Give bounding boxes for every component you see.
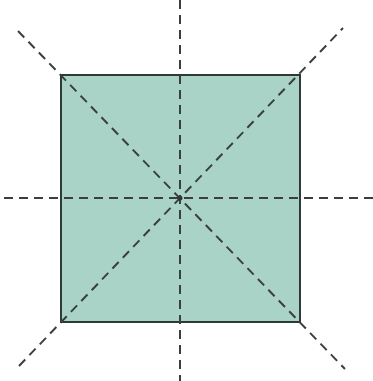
symmetry-diagram [0, 0, 373, 381]
center-point [178, 196, 183, 201]
